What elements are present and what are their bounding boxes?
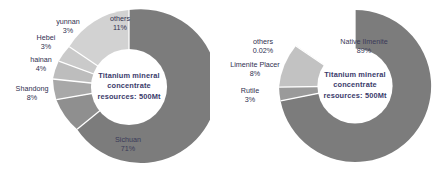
- label-others-right: others 0.02%: [237, 37, 289, 55]
- donut-hole: [317, 48, 392, 123]
- label-hainan: hainan 4%: [19, 55, 63, 73]
- donut-svg-right: [275, 6, 435, 166]
- label-rutile: Rutile 3%: [230, 86, 270, 104]
- label-sichuan: Sichuan 71%: [104, 135, 152, 153]
- two-donut-charts-figure: Titanium mineral concentrate resources: …: [0, 0, 447, 178]
- donut-chart-mineral-types: Titanium mineral concentrate resources: …: [223, 0, 447, 178]
- label-shandong: Shandong 8%: [6, 84, 58, 102]
- label-hebei: Hebei 3%: [26, 33, 66, 51]
- donut-plot-area-right: Titanium mineral concentrate resources: …: [275, 6, 435, 166]
- label-native-ilmenite: Native Ilmenite 89%: [333, 37, 395, 55]
- label-limenite-placer: Limenite Placer 8%: [223, 60, 287, 78]
- donut-chart-provinces: Titanium mineral concentrate resources: …: [0, 0, 223, 178]
- donut-hole: [91, 49, 167, 125]
- label-others: others 11%: [98, 14, 142, 32]
